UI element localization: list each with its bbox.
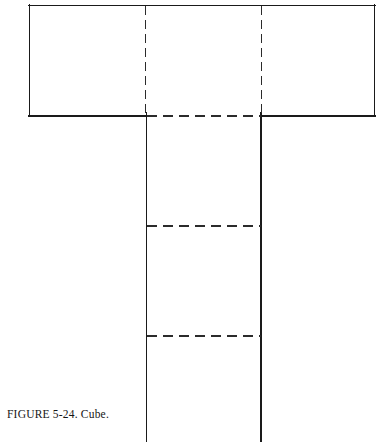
fold-line-group (145, 6, 261, 336)
cube-net-diagram (0, 0, 381, 442)
figure-page: FIGURE 5-24. Cube. (0, 0, 381, 442)
figure-caption: FIGURE 5-24. Cube. (7, 407, 109, 422)
solid-edge-group (29, 5, 375, 442)
